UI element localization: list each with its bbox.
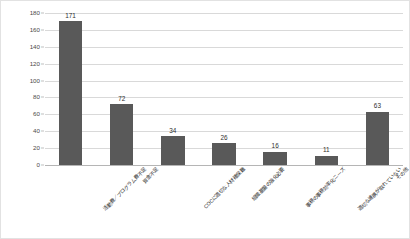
- bar-value-label: 11: [323, 147, 330, 153]
- y-axis-tick-mark: [41, 114, 44, 115]
- bar-value-label: 63: [374, 103, 381, 109]
- bar-value-label: 26: [220, 135, 227, 141]
- bar-value-label: 171: [65, 13, 76, 19]
- y-axis-tick-label: 80: [33, 94, 40, 100]
- bar[interactable]: [59, 21, 83, 165]
- y-axis-tick-label: 180: [30, 10, 40, 16]
- y-axis-tick-mark: [41, 97, 44, 98]
- y-axis-tick-label: 140: [30, 44, 40, 50]
- y-axis-tick-mark: [41, 63, 44, 64]
- bar-chart-figure: 020406080100120140160180171723426161163 …: [0, 0, 410, 239]
- y-axis-tick-mark: [41, 13, 44, 14]
- y-axis-tick-label: 160: [30, 27, 40, 33]
- x-axis-category-label: 事務の事務効率化ニーズ: [305, 167, 347, 209]
- y-axis-tick-label: 60: [33, 111, 40, 117]
- y-axis-tick-label: 20: [33, 145, 40, 151]
- bar-value-label: 16: [272, 143, 279, 149]
- bar[interactable]: [110, 104, 134, 165]
- bar[interactable]: [161, 136, 185, 165]
- y-axis-tick-label: 100: [30, 77, 40, 83]
- y-axis-tick-mark: [41, 29, 44, 30]
- bar-group[interactable]: 72: [110, 13, 134, 165]
- bar-group[interactable]: 11: [315, 13, 339, 165]
- y-axis-tick-label: 120: [30, 61, 40, 67]
- x-axis-category-label: COCに適切な人材確保難: [203, 167, 246, 210]
- bar-value-label: 34: [169, 128, 176, 134]
- x-axis-category-label: 組織基盤の強化必要: [251, 167, 286, 202]
- bar[interactable]: [263, 152, 287, 166]
- bar-value-label: 72: [118, 96, 125, 102]
- y-axis-tick-mark: [41, 131, 44, 132]
- plot-area: 020406080100120140160180171723426161163: [45, 13, 403, 165]
- y-axis-tick-mark: [41, 80, 44, 81]
- x-axis-line: [45, 165, 403, 166]
- bar-group[interactable]: 34: [161, 13, 185, 165]
- bar-group[interactable]: 63: [366, 13, 390, 165]
- y-axis-tick-label: 40: [33, 128, 40, 134]
- bar-group[interactable]: 16: [263, 13, 287, 165]
- bar[interactable]: [315, 156, 339, 165]
- bar[interactable]: [366, 112, 390, 165]
- y-axis-tick-mark: [41, 46, 44, 47]
- x-axis-label-group: 活動費／プログラム費不足資金不足COCに適切な人材確保難組織基盤の強化必要事務の…: [45, 167, 403, 239]
- y-axis-tick-label: 0: [37, 162, 40, 168]
- y-axis-tick-mark: [41, 165, 44, 166]
- bar-group[interactable]: 171: [59, 13, 83, 165]
- x-axis-category-label: 活動費／プログラム費不足: [102, 167, 147, 212]
- bar-group[interactable]: 26: [212, 13, 236, 165]
- y-axis-tick-mark: [41, 148, 44, 149]
- bar[interactable]: [212, 143, 236, 165]
